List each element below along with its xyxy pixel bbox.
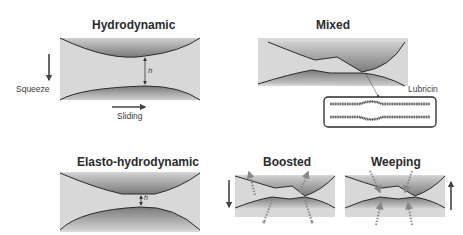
weeping-title: Weeping [371, 155, 421, 169]
elastohydrodynamic-panel [60, 172, 200, 232]
elastohydrodynamic-title: Elasto-hydrodynamic [77, 155, 199, 169]
hydrodynamic-panel [49, 38, 200, 107]
elastohydrodynamic-gap-label: h [144, 194, 148, 201]
mixed-title: Mixed [316, 18, 350, 32]
sliding-label: Sliding [117, 111, 143, 121]
hydrodynamic-title: Hydrodynamic [92, 18, 175, 32]
lubricin-label: Lubricin [408, 84, 438, 94]
boosted-title: Boosted [263, 155, 311, 169]
mixed-panel [258, 38, 436, 127]
boosted-panel [229, 172, 335, 224]
weeping-panel [345, 171, 451, 225]
lubrication-regimes-diagram [0, 0, 463, 235]
squeeze-label: Squeeze [16, 84, 50, 94]
lubricin-inset [324, 97, 436, 127]
hydrodynamic-gap-label: h [148, 66, 152, 75]
